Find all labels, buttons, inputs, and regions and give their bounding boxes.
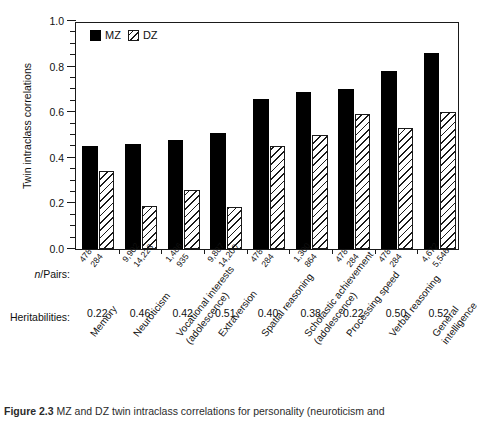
y-tick (70, 225, 76, 226)
bar-mz (338, 89, 354, 249)
bar-dz (227, 207, 243, 249)
bar-dz (355, 114, 371, 249)
caption-body: MZ and DZ twin intraclass correlations f… (57, 405, 385, 417)
y-tick-label: 1.0 (49, 15, 64, 27)
bar-mz (125, 144, 141, 249)
x-tick (161, 249, 162, 254)
y-tick-label: 0.4 (49, 152, 64, 164)
bar-dz (270, 146, 286, 249)
y-axis-title: Twin intraclass correlations (21, 26, 33, 226)
x-tick (247, 249, 248, 254)
bar-dz (142, 206, 158, 249)
bar-mz (168, 140, 184, 249)
caption-figure-number: Figure 2.3 (4, 405, 54, 417)
y-tick (70, 168, 76, 169)
bar-mz (296, 92, 312, 249)
y-tick (70, 134, 76, 135)
legend-item-mz: MZ (90, 29, 121, 41)
legend-item-dz: DZ (128, 29, 158, 41)
heritabilities-row-label: Heritabilities: (0, 311, 70, 323)
category-label: Vocational interests(adolescence) (174, 264, 246, 346)
y-tick (67, 20, 76, 21)
y-tick (67, 248, 76, 249)
y-tick (70, 100, 76, 101)
y-tick (70, 77, 76, 78)
y-tick (70, 54, 76, 55)
bar-dz (99, 171, 115, 249)
y-tick (70, 88, 76, 89)
y-tick (67, 66, 76, 67)
y-tick-label: 0.0 (49, 243, 64, 255)
legend-label-dz: DZ (143, 29, 158, 41)
y-tick (67, 202, 76, 203)
y-tick (70, 31, 76, 32)
y-tick (70, 214, 76, 215)
legend-label-mz: MZ (105, 29, 121, 41)
y-tick (67, 111, 76, 112)
plot-area: MZ DZ 0.00.20.40.60.81.0 (75, 22, 459, 250)
x-tick (119, 249, 120, 254)
x-tick (289, 249, 290, 254)
y-tick-label: 0.6 (49, 106, 64, 118)
y-tick (70, 191, 76, 192)
y-tick-label: 0.8 (49, 61, 64, 73)
category-label: Generalintelligence (430, 293, 479, 347)
y-tick (67, 157, 76, 158)
x-tick (417, 249, 418, 254)
y-tick (70, 145, 76, 146)
y-tick (70, 180, 76, 181)
x-tick (375, 249, 376, 254)
bar-mz (381, 71, 397, 249)
x-tick (204, 249, 205, 254)
figure-caption: Figure 2.3 MZ and DZ twin intraclass cor… (4, 404, 470, 430)
bar-mz (82, 146, 98, 249)
legend: MZ DZ (90, 29, 158, 41)
y-tick (70, 123, 76, 124)
legend-swatch-dz-icon (128, 30, 139, 41)
bar-mz (253, 99, 269, 249)
y-tick (70, 237, 76, 238)
bar-dz (184, 190, 200, 249)
bar-dz (312, 135, 328, 249)
bar-mz (210, 133, 226, 249)
y-tick (70, 43, 76, 44)
y-tick-label: 0.2 (49, 197, 64, 209)
legend-swatch-mz-icon (90, 30, 101, 41)
bar-dz (398, 128, 414, 249)
npairs-row-label: n/Pairs: (0, 268, 70, 280)
bar-dz (440, 112, 456, 249)
bar-mz (424, 53, 440, 249)
x-tick (332, 249, 333, 254)
